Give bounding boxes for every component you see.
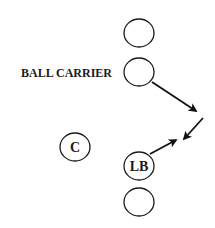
linebacker-path-arrow xyxy=(150,140,176,154)
top-player-circle xyxy=(124,19,154,47)
play-diagram: BALL CARRIER C LB xyxy=(0,0,215,228)
ball-carrier-path-arrow xyxy=(152,82,196,111)
converge-arrow xyxy=(184,118,203,139)
ball-carrier-circle xyxy=(124,58,154,86)
diagram-svg: BALL CARRIER C LB xyxy=(0,0,215,228)
linebacker-label: LB xyxy=(130,159,149,174)
bottom-player-circle xyxy=(124,188,154,216)
center-label: C xyxy=(70,140,80,155)
ball-carrier-label: BALL CARRIER xyxy=(21,66,112,80)
